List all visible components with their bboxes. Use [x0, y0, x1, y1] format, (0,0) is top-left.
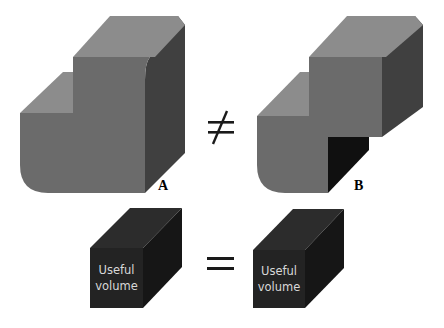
- useful-volume-cube-right: Useful volume: [253, 209, 344, 308]
- cube-left-text-line2: volume: [95, 279, 138, 293]
- cube-right-text-line1: Useful: [261, 264, 297, 278]
- useful-volume-diagram: A B Useful volume U: [0, 0, 444, 328]
- shape-b-lower-top-face: [257, 72, 309, 116]
- shape-b-upper-front-face: [309, 57, 382, 137]
- shape-b: B: [257, 16, 423, 193]
- cube-right-front-face: [253, 250, 305, 308]
- shape-a-lower-top-face: [20, 72, 73, 113]
- cube-left-front-face: [90, 248, 143, 308]
- shape-b-label: B: [354, 178, 363, 193]
- cube-left-text-line1: Useful: [98, 263, 134, 277]
- cube-right-text-line2: volume: [258, 280, 301, 294]
- not-equal-sign: [208, 111, 234, 144]
- equal-sign: [207, 257, 234, 270]
- shape-a-label: A: [158, 178, 169, 193]
- shape-a-front-face: [20, 57, 150, 193]
- shape-a: A: [20, 16, 185, 193]
- useful-volume-cube-left: Useful volume: [90, 208, 182, 308]
